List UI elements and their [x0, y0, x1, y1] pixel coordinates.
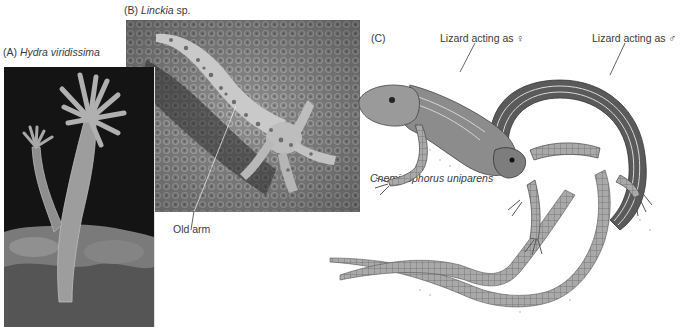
panel-b-label: (B) Linckia sp. [124, 4, 191, 16]
panel-a-species: Hydra viridissima [20, 46, 100, 58]
hydra-image [4, 67, 154, 327]
panel-b-letter: (B) [124, 4, 138, 16]
lizards-illustration [320, 40, 680, 327]
panel-a-photo-hydra [4, 67, 155, 327]
panel-a-label: (A) Hydra viridissima [3, 46, 100, 58]
male-leader-line [610, 43, 625, 75]
old-arm-annotation: Old arm [173, 223, 210, 235]
panel-a-letter: (A) [3, 46, 17, 58]
female-leader-line [460, 43, 475, 72]
panel-b-species: Linckia [141, 4, 174, 16]
panel-b-species-suffix: sp. [177, 4, 191, 16]
